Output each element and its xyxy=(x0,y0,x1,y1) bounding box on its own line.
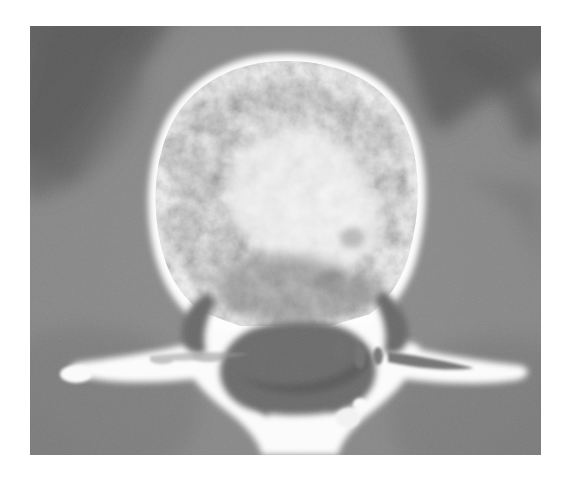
screenshot-root xyxy=(0,0,568,483)
ct-scan-image xyxy=(30,26,541,455)
ct-scan-canvas xyxy=(30,26,541,455)
film-grain-overlay xyxy=(30,26,541,455)
